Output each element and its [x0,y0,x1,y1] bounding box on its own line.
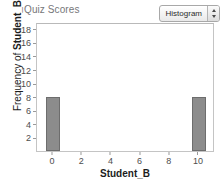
y-axis-tick-label: 10 [21,79,33,89]
x-axis-tick-mark [110,152,111,155]
x-axis-label: Student_B [36,168,214,179]
y-axis-tick-mark [33,84,36,85]
y-axis-label-prefix: Frequency of [12,50,23,111]
histogram-widget: Quiz Scores Histogram 24681012141618 Fre… [0,0,224,186]
plot-type-value: Histogram [160,6,207,21]
x-axis-tick: 10 [193,152,203,167]
y-axis-tick-label: 2 [26,133,33,143]
y-axis-tick-mark [33,138,36,139]
y-axis-tick: 8 [26,93,36,103]
triangle-up-icon[interactable] [212,9,216,12]
bars-layer [37,24,213,151]
x-axis-tick: 8 [166,152,171,167]
y-axis-tick: 4 [26,120,36,130]
y-axis-tick: 10 [21,79,36,89]
stepper-control[interactable] [207,6,219,21]
y-axis-tick: 6 [26,106,36,116]
y-axis-tick-mark [33,111,36,112]
x-axis-tick-mark [168,152,169,155]
y-axis-tick-mark [33,29,36,30]
y-axis-tick-mark [33,124,36,125]
y-axis-tick: 14 [21,52,36,62]
x-axis-tick-label: 2 [79,156,84,167]
x-axis: 0246810 [36,152,214,168]
y-axis-tick-mark [33,97,36,98]
y-axis-tick-mark [33,70,36,71]
x-axis-tick-mark [197,152,198,155]
x-axis-tick: 2 [79,152,84,167]
y-axis-tick-label: 4 [26,120,33,130]
x-axis-tick: 0 [50,152,55,167]
y-axis-tick-label: 6 [26,106,33,116]
y-axis-tick-label: 18 [21,25,33,35]
y-axis-tick-mark [33,56,36,57]
histogram-bar [46,97,61,151]
y-axis-tick: 18 [21,25,36,35]
x-axis-tick-label: 10 [193,156,203,167]
y-axis-tick-mark [33,43,36,44]
x-axis-tick-label: 4 [108,156,113,167]
x-axis-tick-mark [52,152,53,155]
y-axis-tick-label: 12 [21,66,33,76]
y-axis-tick: 2 [26,133,36,143]
x-axis-tick-label: 0 [50,156,55,167]
y-axis-tick-label: 16 [21,38,33,48]
histogram-bar [192,97,207,151]
plot-area [36,23,214,152]
x-axis-tick: 4 [108,152,113,167]
y-axis-tick: 12 [21,66,36,76]
y-axis-tick-label: 14 [21,52,33,62]
page-title: Quiz Scores [24,4,80,15]
x-axis-tick-mark [81,152,82,155]
y-axis-label-variable: Student_B [12,0,23,50]
y-axis-tick-label: 8 [26,93,33,103]
x-axis-tick-label: 8 [166,156,171,167]
y-axis-tick: 16 [21,38,36,48]
x-axis-tick-label: 6 [137,156,142,167]
x-axis-tick-mark [139,152,140,155]
x-axis-tick: 6 [137,152,142,167]
plot-type-dropdown[interactable]: Histogram [159,5,220,22]
y-axis-label: Frequency of Student_B [12,0,23,131]
triangle-down-icon[interactable] [212,15,216,18]
